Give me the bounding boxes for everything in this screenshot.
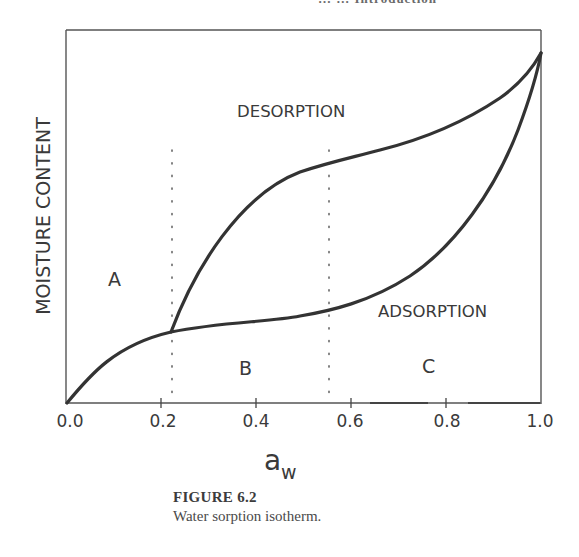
x-tick-label: 0.0: [56, 411, 83, 431]
desorption-label: DESORPTION: [237, 102, 345, 121]
y-axis-label: MOISTURE CONTENT: [32, 117, 54, 315]
x-axis-label: a w: [264, 444, 297, 483]
sorption-isotherm-chart: 0.0 0.2 0.4 0.6 0.8 1.0 a w MOISTURE CON…: [0, 0, 579, 557]
x-tick-label: 0.6: [336, 411, 363, 431]
x-axis-tick-labels: 0.0 0.2 0.4 0.6 0.8 1.0: [56, 411, 553, 431]
chart-annotations: DESORPTION ADSORPTION A B C: [108, 102, 487, 379]
x-tick-label: 1.0: [526, 411, 553, 431]
x-axis-label-subscript: w: [281, 461, 297, 483]
region-c-label: C: [422, 355, 435, 377]
region-a-label: A: [108, 268, 121, 290]
x-tick-label: 0.8: [433, 411, 460, 431]
x-axis-label-main: a: [264, 444, 281, 477]
region-b-label: B: [239, 357, 252, 379]
figure-caption: Water sorption isotherm.: [173, 508, 321, 525]
adsorption-label: ADSORPTION: [378, 302, 487, 321]
x-tick-label: 0.2: [149, 411, 176, 431]
x-tick-label: 0.4: [242, 411, 269, 431]
figure-label: FIGURE 6.2: [173, 489, 257, 506]
